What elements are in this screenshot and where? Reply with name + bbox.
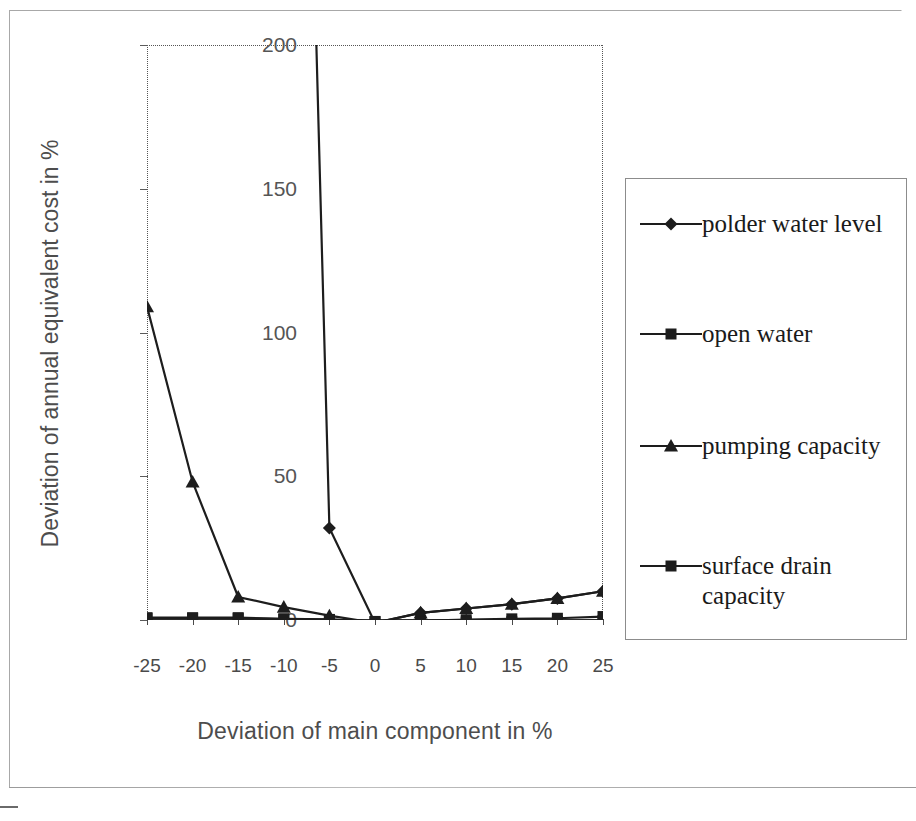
square-marker — [461, 617, 472, 620]
series-line — [284, 45, 603, 620]
square-marker — [666, 329, 677, 340]
legend-key-square-icon — [640, 321, 702, 347]
legend-marker-canvas — [640, 321, 702, 347]
legend-label: surface drain capacity — [702, 551, 832, 611]
y-axis-title: Deviation of annual equivalent cost in % — [37, 84, 64, 604]
legend-key-diamond-icon — [640, 211, 702, 237]
x-tick-mark — [603, 619, 604, 625]
legend-item[interactable]: pumping capacity — [640, 431, 902, 461]
square-marker — [324, 614, 335, 620]
square-marker — [370, 616, 381, 620]
legend-item[interactable]: polder water level — [640, 209, 902, 239]
square-marker — [666, 561, 677, 572]
page-frame-margin-mark — [0, 806, 18, 808]
square-marker — [147, 613, 153, 620]
legend-marker-canvas — [640, 211, 702, 237]
legend-item[interactable]: open water — [640, 319, 902, 349]
diamond-marker — [323, 522, 336, 535]
legend-label: pumping capacity — [702, 431, 880, 461]
x-tick-label: 0 — [370, 655, 381, 677]
triangle-marker — [231, 590, 245, 603]
triangle-marker — [664, 439, 678, 452]
square-marker — [552, 616, 563, 620]
x-tick-label: 20 — [547, 655, 568, 677]
x-tick-label: -20 — [179, 655, 206, 677]
x-tick-label: 5 — [415, 655, 426, 677]
square-marker — [278, 614, 289, 620]
legend-label: open water — [702, 319, 812, 349]
series-polder-water-level — [284, 45, 603, 620]
x-tick-label: -10 — [270, 655, 297, 677]
square-marker — [598, 615, 604, 620]
square-marker — [506, 616, 517, 620]
chart-legend: polder water levelopen waterpumping capa… — [625, 178, 907, 640]
x-tick-label: -5 — [321, 655, 338, 677]
x-tick-label: -25 — [133, 655, 160, 677]
triangle-marker — [596, 584, 603, 597]
triangle-marker — [147, 300, 154, 313]
legend-marker-canvas — [640, 433, 702, 459]
x-axis-title: Deviation of main component in % — [147, 718, 603, 745]
x-tick-label: 25 — [592, 655, 613, 677]
figure-container: 050100150200 -25-20-15-10-50510152025 De… — [0, 0, 916, 821]
square-marker — [415, 617, 426, 620]
legend-key-triangle-icon — [640, 433, 702, 459]
x-tick-label: -15 — [224, 655, 251, 677]
legend-label: polder water level — [702, 209, 882, 239]
square-marker — [187, 613, 198, 620]
diamond-marker — [665, 218, 678, 231]
legend-key-square-icon — [640, 553, 702, 579]
page-frame-bottom-rule — [10, 787, 916, 788]
x-tick-label: 10 — [456, 655, 477, 677]
plot-area — [147, 45, 603, 620]
legend-marker-canvas — [640, 553, 702, 579]
triangle-marker — [186, 475, 200, 488]
series-line — [147, 307, 603, 620]
chart-series-canvas — [147, 45, 603, 620]
series-pumping-capacity — [147, 300, 603, 620]
square-marker — [233, 613, 244, 620]
legend-item[interactable]: surface drain capacity — [640, 551, 902, 611]
x-tick-label: 15 — [501, 655, 522, 677]
